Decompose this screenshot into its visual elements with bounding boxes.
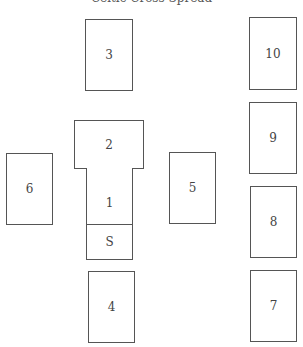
position-label: 10: [265, 47, 280, 61]
position-label: 1: [106, 196, 114, 210]
position-9: 9: [249, 102, 297, 174]
position-8: 8: [250, 186, 297, 258]
position-label: 9: [269, 131, 277, 145]
position-significator: S: [86, 224, 133, 260]
position-1: 1: [86, 168, 133, 225]
position-label: 5: [189, 181, 197, 195]
position-3: 3: [85, 19, 133, 91]
position-2-crossing: 2: [74, 120, 144, 169]
position-label: 7: [270, 299, 278, 313]
position-label: 4: [108, 300, 116, 314]
diagram-title: Celtic Cross Spread: [0, 0, 303, 5]
position-6: 6: [6, 153, 53, 225]
position-label: S: [105, 235, 113, 249]
position-4: 4: [88, 271, 135, 343]
position-label: 3: [105, 48, 113, 62]
position-label: 2: [105, 138, 113, 152]
position-7: 7: [250, 270, 297, 342]
position-label: 8: [270, 215, 278, 229]
position-label: 6: [26, 182, 34, 196]
position-10: 10: [249, 17, 297, 90]
position-5: 5: [169, 152, 216, 224]
